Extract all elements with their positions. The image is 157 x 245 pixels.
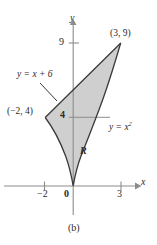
region-label-R: R [80,146,87,156]
figure-caption: (b) [68,223,80,233]
parabola-equation-exponent: 2 [129,120,132,127]
y-tick-label-4: 4 [60,110,65,120]
x-axis-label: x [141,177,145,187]
x-tick-label-3: 3 [117,189,122,199]
y-axis-label: y [70,13,74,23]
leader-line-to-line-equation [40,83,57,101]
parabola-equation-label: y = x2 [109,121,132,133]
shaded-region-R [45,43,121,186]
parabola-equation-base: y = x [109,122,129,132]
x-tick-label-0: 0 [64,189,69,199]
region-between-curves-figure [0,0,157,245]
point-label-intersection-left: (−2, 4) [7,107,33,117]
line-equation-label: y = x + 6 [17,70,53,80]
point-label-intersection-right: (3, 9) [110,29,131,39]
x-tick-label-neg2: −2 [37,189,48,199]
y-tick-label-9: 9 [59,37,64,47]
